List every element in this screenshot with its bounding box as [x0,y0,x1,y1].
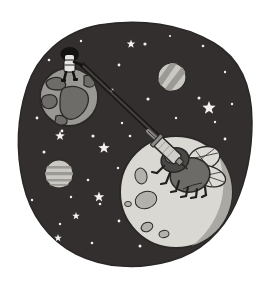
astronaut-boot [73,78,78,81]
star-dot [224,71,226,73]
star-dot [91,242,94,245]
star-dot [231,103,233,105]
star-dot [146,97,149,100]
star-dot [36,117,39,120]
star-dot [224,138,227,141]
illustration-canvas: Cartoon illustration of deep space with … [0,0,271,285]
star-dot [214,121,216,123]
star-dot [169,35,171,37]
star-dot [61,130,64,133]
star-dot [175,117,177,119]
star-dot [99,203,102,206]
star-dot [43,151,46,154]
star-dot [80,40,82,42]
star-dot [117,167,119,169]
earth [40,68,98,126]
earth-landmass [42,95,58,109]
star-dot [129,135,132,138]
space-illustration [0,0,271,285]
star-dot [70,196,72,198]
star-dot [91,134,94,137]
star-dot [198,97,201,100]
astronaut-boot [61,79,66,82]
star-dot [143,42,146,45]
star-dot [202,45,205,48]
moon-crater [125,201,132,206]
star-dot [48,59,51,62]
star-dot [139,245,142,248]
star-dot [59,223,61,225]
star-dot [118,220,121,223]
star-dot [31,199,33,201]
star-dot [87,179,90,182]
star-dot [121,122,123,124]
star-dot [118,64,121,67]
